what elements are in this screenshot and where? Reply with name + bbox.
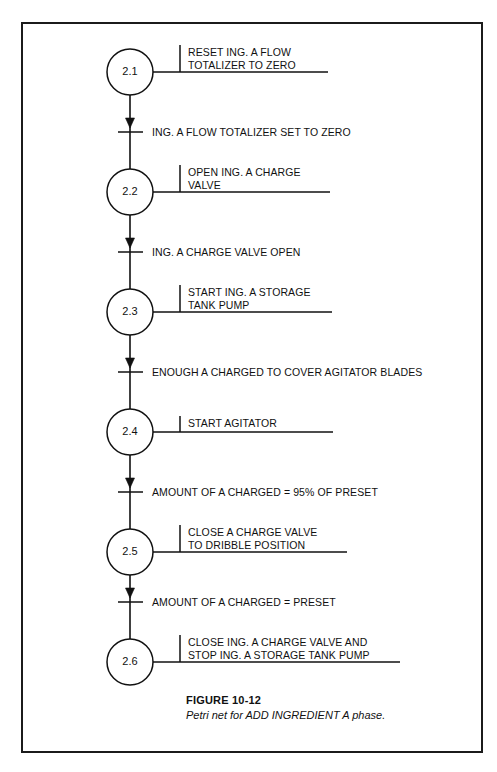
- place-2.2: 2.2: [107, 169, 153, 215]
- action-text-line: STOP ING. A STORAGE TANK PUMP: [188, 649, 370, 661]
- place-label: 2.4: [122, 425, 137, 437]
- transition-2.4-2.5: AMOUNT OF A CHARGED = 95% OF PRESET: [118, 478, 378, 498]
- action-text-line: TOTALIZER TO ZERO: [188, 59, 296, 71]
- action-2.4: START AGITATOR: [153, 416, 333, 432]
- petri-net-diagram: ING. A FLOW TOTALIZER SET TO ZEROING. A …: [0, 0, 497, 772]
- transition-2.1-2.2: ING. A FLOW TOTALIZER SET TO ZERO: [118, 118, 351, 138]
- action-2.6: CLOSE ING. A CHARGE VALVE ANDSTOP ING. A…: [153, 635, 400, 662]
- action-text-line: TO DRIBBLE POSITION: [188, 539, 305, 551]
- action-text-line: CLOSE A CHARGE VALVE: [188, 526, 317, 538]
- place-label: 2.5: [122, 545, 137, 557]
- place-label: 2.2: [122, 185, 137, 197]
- action-2.5: CLOSE A CHARGE VALVETO DRIBBLE POSITION: [153, 525, 347, 552]
- transition-label: AMOUNT OF A CHARGED = PRESET: [152, 596, 336, 608]
- action-text-line: START AGITATOR: [188, 417, 277, 429]
- transition-label: ING. A CHARGE VALVE OPEN: [152, 246, 300, 258]
- transition-2.2-2.3: ING. A CHARGE VALVE OPEN: [118, 238, 300, 258]
- action-text-line: TANK PUMP: [188, 299, 249, 311]
- place-2.5: 2.5: [107, 529, 153, 575]
- action-text-line: VALVE: [188, 179, 221, 191]
- place-2.6: 2.6: [107, 639, 153, 685]
- arrowhead-icon: [126, 118, 135, 128]
- transition-label: ING. A FLOW TOTALIZER SET TO ZERO: [152, 126, 351, 138]
- action-text-line: START ING. A STORAGE: [188, 286, 311, 298]
- arrowhead-icon: [126, 588, 135, 598]
- place-label: 2.1: [122, 65, 137, 77]
- action-2.3: START ING. A STORAGETANK PUMP: [153, 285, 332, 312]
- figure-caption-number: FIGURE 10-12: [186, 694, 261, 706]
- transition-2.3-2.4: ENOUGH A CHARGED TO COVER AGITATOR BLADE…: [118, 358, 422, 378]
- arrowhead-icon: [126, 238, 135, 248]
- place-2.4: 2.4: [107, 409, 153, 455]
- action-text-line: OPEN ING. A CHARGE: [188, 166, 301, 178]
- figure-caption-text: Petri net for ADD INGREDIENT A phase.: [186, 709, 385, 721]
- place-2.1: 2.1: [107, 49, 153, 95]
- place-label: 2.3: [122, 305, 137, 317]
- place-label: 2.6: [122, 655, 137, 667]
- action-text-line: RESET ING. A FLOW: [188, 46, 291, 58]
- transition-label: ENOUGH A CHARGED TO COVER AGITATOR BLADE…: [152, 366, 422, 378]
- action-2.2: OPEN ING. A CHARGEVALVE: [153, 165, 330, 192]
- arrowhead-icon: [126, 358, 135, 368]
- place-2.3: 2.3: [107, 289, 153, 335]
- action-text-line: CLOSE ING. A CHARGE VALVE AND: [188, 636, 368, 648]
- action-2.1: RESET ING. A FLOWTOTALIZER TO ZERO: [153, 45, 328, 72]
- figure-page: ING. A FLOW TOTALIZER SET TO ZEROING. A …: [0, 0, 497, 772]
- transition-label: AMOUNT OF A CHARGED = 95% OF PRESET: [152, 486, 378, 498]
- transition-2.5-2.6: AMOUNT OF A CHARGED = PRESET: [118, 588, 336, 608]
- arrowhead-icon: [126, 478, 135, 488]
